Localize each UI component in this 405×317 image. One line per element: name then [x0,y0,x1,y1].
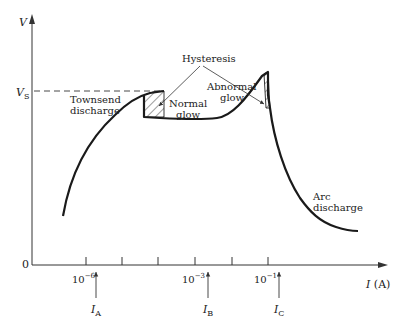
label-normal-2: glow [176,109,201,120]
hysteresis-label: Hysteresis [182,53,236,64]
y-axis-label: V [19,16,28,29]
tick-label-1e-1: 10−1 [254,272,277,285]
label-townsend: Townsend [70,94,121,105]
svg-text:IC: IC [273,303,284,317]
y-axis-arrow-icon [29,14,35,24]
tick-label-1e-3: 10−3 [182,272,205,285]
label-arc: Arc [312,191,331,202]
vi-characteristic-diagram: V 0 I (A) VS 10−6 10−3 10−1 IA IB IC Hys… [0,0,405,317]
label-abnormal: Abnormal [206,81,257,92]
label-normal: Normal [169,98,207,109]
svg-text:IA: IA [90,303,101,317]
tick-label-1e-6: 10−6 [72,272,96,285]
label-arc-2: discharge [313,202,363,213]
vs-label: VS [16,86,29,101]
x-axis-label: I (A) [365,278,390,291]
label-townsend-2: discharge [70,105,120,116]
svg-text:IB: IB [202,303,213,317]
x-axis-arrow-icon [378,262,388,268]
label-abnormal-2: glow [220,92,245,103]
origin-label: 0 [22,258,29,271]
